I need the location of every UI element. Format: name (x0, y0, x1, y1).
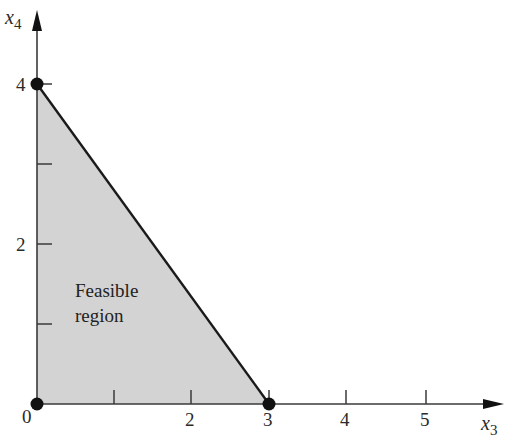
x-tick-label-3: 3 (263, 409, 273, 430)
y-axis-arrow-icon (32, 10, 42, 31)
region-label-line2: region (75, 305, 124, 326)
y-tick-label-4: 4 (16, 74, 26, 95)
corner-point-3-0 (263, 398, 276, 411)
x-axis-label: x3 (480, 412, 497, 438)
x-axis-arrow-icon (483, 399, 504, 409)
x-axis-label-subscript: 3 (490, 422, 498, 438)
x-tick-label-2: 2 (185, 409, 195, 430)
x-axis-label-name: x (480, 412, 490, 434)
x-tick-label-5: 5 (420, 409, 430, 430)
y-axis-label-name: x (4, 6, 14, 28)
y-tick-label-2: 2 (16, 234, 26, 255)
corner-point-origin (31, 398, 44, 411)
x-tick-label-4: 4 (340, 409, 350, 430)
corner-point-0-4 (31, 78, 44, 91)
origin-label: 0 (22, 406, 32, 427)
feasible-region-diagram: 0 2 3 4 5 2 4 x4 x3 Feasible region (0, 0, 515, 443)
y-axis-label-subscript: 4 (14, 16, 22, 32)
y-axis-label: x4 (4, 6, 22, 32)
region-label-line1: Feasible (75, 280, 138, 301)
